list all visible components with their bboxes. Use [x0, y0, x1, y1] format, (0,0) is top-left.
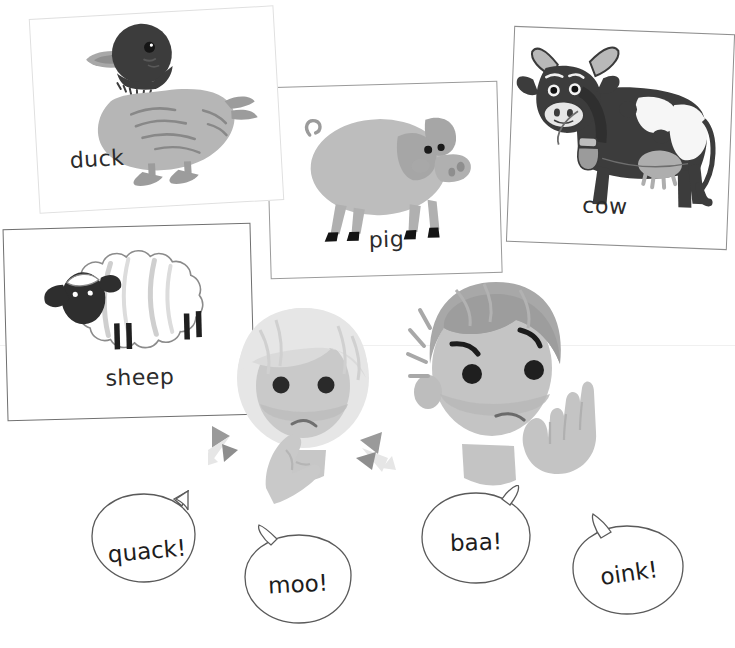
- animal-card-duck[interactable]: duck: [29, 5, 285, 213]
- cutoff-header-text: [54, 0, 384, 5]
- animal-card-pig[interactable]: pig: [265, 81, 502, 279]
- speech-bubble-baa[interactable]: baa!: [412, 485, 540, 597]
- speech-bubble-text: baa!: [412, 527, 541, 557]
- card-label-sheep: sheep: [105, 364, 175, 391]
- girl-illustration: [208, 300, 398, 515]
- girl-character: [208, 300, 398, 515]
- card-label-duck: duck: [69, 145, 125, 173]
- speech-bubble-moo[interactable]: moo!: [235, 523, 361, 633]
- boy-character: [400, 268, 615, 518]
- card-label-cow: cow: [582, 193, 628, 220]
- card-label-pig: pig: [368, 226, 404, 252]
- animal-card-cow[interactable]: cow: [506, 26, 735, 250]
- speech-bubble-quack[interactable]: quack!: [82, 490, 212, 600]
- boy-illustration: [400, 268, 615, 518]
- worksheet-page: duck: [0, 0, 735, 648]
- duck-illustration: [30, 6, 283, 212]
- speech-bubble-oink[interactable]: oink!: [565, 510, 693, 622]
